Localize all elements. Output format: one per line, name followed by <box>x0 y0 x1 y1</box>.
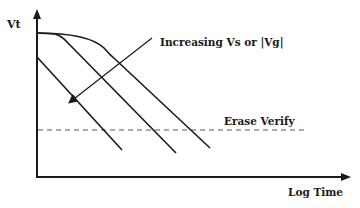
erase-curve-diagram <box>0 0 360 208</box>
erase-verify-label: Erase Verify <box>224 115 295 127</box>
increasing-bias-arrow <box>70 38 152 102</box>
curve-low-bias <box>37 33 210 148</box>
x-axis-label: Log Time <box>288 186 343 198</box>
y-axis-label: Vt <box>7 18 21 31</box>
arrow-annotation: Increasing Vs or |Vg| <box>160 36 284 48</box>
x-axis-arrow-icon <box>341 173 351 181</box>
y-axis-arrow-icon <box>33 9 41 19</box>
